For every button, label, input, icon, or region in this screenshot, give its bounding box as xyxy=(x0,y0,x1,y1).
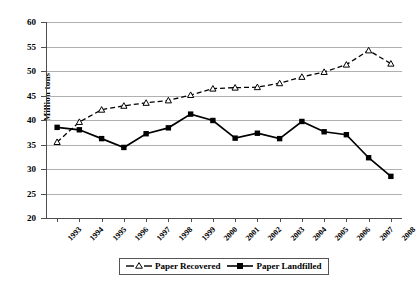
data-point-marker-triangle xyxy=(277,80,283,86)
x-tick-mark-2004 xyxy=(302,218,303,222)
x-tick-mark-2002 xyxy=(257,218,258,222)
x-tick-mark-2001 xyxy=(235,218,236,222)
data-point-marker-square xyxy=(54,125,59,130)
data-point-marker-square xyxy=(366,155,371,160)
x-tick-label-1997: 1997 xyxy=(155,225,173,243)
data-point-marker-square xyxy=(344,132,349,137)
data-point-marker-triangle xyxy=(76,119,82,125)
x-tick-mark-2000 xyxy=(213,218,214,222)
y-tick-label-55: 55 xyxy=(14,43,36,52)
x-tick-mark-2006 xyxy=(346,218,347,222)
data-point-marker-square xyxy=(321,129,326,134)
data-point-marker-square xyxy=(99,136,104,141)
x-tick-mark-2005 xyxy=(324,218,325,222)
legend-label-paper-landfilled: Paper Landfilled xyxy=(256,261,321,271)
x-tick-label-2008: 2008 xyxy=(400,225,417,243)
x-tick-mark-1999 xyxy=(191,218,192,222)
x-tick-mark-1996 xyxy=(124,218,125,222)
x-tick-label-2005: 2005 xyxy=(333,225,351,243)
legend-item-paper-recovered: Paper Recovered xyxy=(126,261,220,271)
y-tick-label-40: 40 xyxy=(14,116,36,125)
legend-marker-filled-square-icon xyxy=(227,261,253,271)
data-point-marker-triangle xyxy=(366,47,372,53)
x-tick-label-2003: 2003 xyxy=(288,225,306,243)
data-point-marker-triangle xyxy=(343,62,349,68)
data-point-marker-square xyxy=(143,131,148,136)
x-tick-mark-1997 xyxy=(146,218,147,222)
y-tick-label-20: 20 xyxy=(14,214,36,223)
data-point-marker-triangle xyxy=(388,61,394,67)
x-tick-mark-1998 xyxy=(168,218,169,222)
data-point-marker-square xyxy=(299,119,304,124)
x-tick-label-1993: 1993 xyxy=(66,225,84,243)
x-tick-mark-2007 xyxy=(369,218,370,222)
data-point-marker-square xyxy=(255,131,260,136)
y-tick-label-30: 30 xyxy=(14,165,36,174)
y-tick-label-60: 60 xyxy=(14,18,36,27)
series-plot-area xyxy=(46,22,402,218)
data-point-marker-square xyxy=(166,125,171,130)
x-tick-mark-1993 xyxy=(57,218,58,222)
x-tick-mark-1994 xyxy=(79,218,80,222)
y-tick-label-25: 25 xyxy=(14,190,36,199)
legend-item-paper-landfilled: Paper Landfilled xyxy=(227,261,321,271)
x-tick-label-2004: 2004 xyxy=(311,225,329,243)
data-point-marker-triangle xyxy=(299,74,305,80)
data-point-marker-square xyxy=(121,145,126,150)
data-point-marker-square xyxy=(232,135,237,140)
x-tick-label-1999: 1999 xyxy=(199,225,217,243)
data-point-marker-square xyxy=(388,174,393,179)
legend-label-paper-recovered: Paper Recovered xyxy=(155,261,220,271)
series-paper-landfilled xyxy=(54,111,393,179)
series-line xyxy=(57,114,391,176)
x-tick-label-1998: 1998 xyxy=(177,225,195,243)
data-point-marker-square xyxy=(277,136,282,141)
data-point-marker-square xyxy=(77,127,82,132)
y-tick-label-35: 35 xyxy=(14,141,36,150)
chart-legend: Paper Recovered Paper Landfilled xyxy=(119,258,329,275)
y-tick-label-50: 50 xyxy=(14,67,36,76)
y-tick-label-45: 45 xyxy=(14,92,36,101)
legend-marker-open-triangle-icon xyxy=(126,261,152,271)
x-axis-line xyxy=(46,218,402,219)
x-tick-label-2001: 2001 xyxy=(244,225,262,243)
x-tick-mark-2008 xyxy=(391,218,392,222)
data-point-marker-square xyxy=(188,111,193,116)
x-tick-label-1995: 1995 xyxy=(110,225,128,243)
x-tick-label-2000: 2000 xyxy=(222,225,240,243)
x-tick-label-1994: 1994 xyxy=(88,225,106,243)
x-tick-label-2006: 2006 xyxy=(355,225,373,243)
x-tick-mark-1995 xyxy=(102,218,103,222)
x-tick-label-2002: 2002 xyxy=(266,225,284,243)
x-tick-mark-2003 xyxy=(280,218,281,222)
x-tick-label-1996: 1996 xyxy=(133,225,151,243)
data-point-marker-square xyxy=(210,118,215,123)
x-tick-label-2007: 2007 xyxy=(377,225,395,243)
